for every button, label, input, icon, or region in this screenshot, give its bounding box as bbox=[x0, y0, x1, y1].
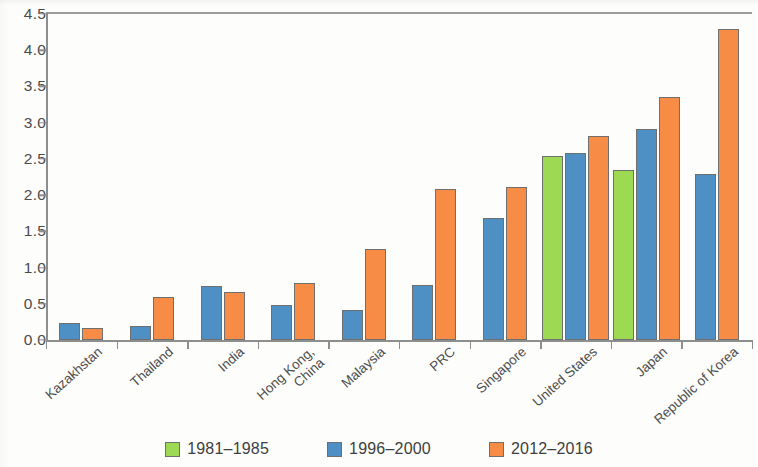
legend-swatch-icon bbox=[327, 442, 342, 457]
x-axis-label-line: Kazakhstan bbox=[43, 344, 105, 402]
bar-singapore-1996-2000 bbox=[483, 218, 504, 340]
x-axis-label-united-states: United States bbox=[529, 344, 599, 409]
bar-singapore-2012-2016 bbox=[506, 187, 527, 340]
legend-item-2: 2012–2016 bbox=[489, 440, 593, 458]
x-axis-label-kazakhstan: Kazakhstan bbox=[43, 344, 105, 402]
x-axis-label-singapore: Singapore bbox=[473, 344, 529, 396]
bar-prc-2012-2016 bbox=[435, 189, 456, 340]
bar-republic-of-korea-2012-2016 bbox=[718, 29, 739, 340]
bar-thailand-1996-2000 bbox=[130, 326, 151, 340]
x-axis-label-line: Thailand bbox=[127, 344, 176, 390]
bar-japan-1996-2000 bbox=[636, 129, 657, 340]
x-axis-label-line: India bbox=[215, 344, 247, 375]
bar-chart: 0.00.51.01.52.02.53.03.54.04.5 Kazakhsta… bbox=[0, 0, 758, 467]
legend-item-1: 1996–2000 bbox=[327, 440, 431, 458]
legend-swatch-icon bbox=[489, 442, 504, 457]
x-axis-label-japan: Japan bbox=[633, 344, 670, 380]
bar-kazakhstan-1996-2000 bbox=[59, 323, 80, 340]
x-axis-label-prc: PRC bbox=[427, 344, 458, 374]
bar-kazakhstan-2012-2016 bbox=[82, 328, 103, 340]
bar-prc-1996-2000 bbox=[412, 285, 433, 340]
legend-label: 2012–2016 bbox=[511, 440, 593, 458]
x-axis-label-thailand: Thailand bbox=[127, 344, 176, 390]
x-axis-label-line: PRC bbox=[427, 344, 458, 374]
bar-thailand-2012-2016 bbox=[153, 297, 174, 340]
legend-item-0: 1981–1985 bbox=[165, 440, 269, 458]
x-axis-label-line: Japan bbox=[633, 344, 670, 380]
bar-hong-kong-china-1996-2000 bbox=[271, 305, 292, 340]
x-axis-label-hong-kong-china: Hong Kong,China bbox=[254, 344, 327, 414]
bar-malaysia-1996-2000 bbox=[342, 310, 363, 340]
bar-hong-kong-china-2012-2016 bbox=[294, 283, 315, 340]
x-axis-label-line: United States bbox=[529, 344, 599, 409]
bar-japan-1981-1985 bbox=[613, 170, 634, 340]
bar-united-states-2012-2016 bbox=[588, 136, 609, 340]
legend-swatch-icon bbox=[165, 442, 180, 457]
x-axis-label-line: Singapore bbox=[473, 344, 529, 396]
bar-malaysia-2012-2016 bbox=[365, 249, 386, 340]
bar-india-1996-2000 bbox=[201, 286, 222, 340]
bars-layer bbox=[0, 0, 758, 341]
x-axis-labels: KazakhstanThailandIndiaHong Kong,ChinaMa… bbox=[0, 344, 758, 434]
legend-label: 1996–2000 bbox=[349, 440, 431, 458]
x-axis-label-india: India bbox=[215, 344, 247, 375]
bar-republic-of-korea-1996-2000 bbox=[695, 174, 716, 340]
x-axis-label-malaysia: Malaysia bbox=[338, 344, 388, 391]
bar-japan-2012-2016 bbox=[659, 97, 680, 340]
chart-legend: 1981–19851996–20002012–2016 bbox=[0, 440, 758, 458]
bar-united-states-1996-2000 bbox=[565, 153, 586, 340]
legend-label: 1981–1985 bbox=[187, 440, 269, 458]
x-axis-label-line: Malaysia bbox=[338, 344, 388, 391]
bar-united-states-1981-1985 bbox=[542, 156, 563, 340]
bar-india-2012-2016 bbox=[224, 292, 245, 340]
